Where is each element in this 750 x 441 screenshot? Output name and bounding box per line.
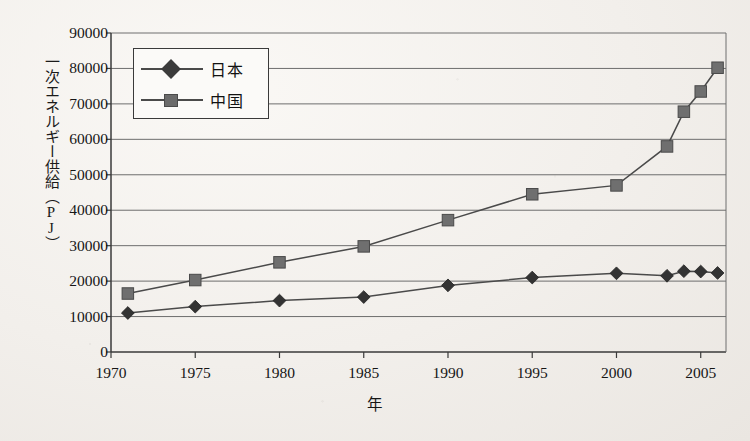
data-point-china <box>274 257 286 269</box>
data-point-china <box>526 189 538 201</box>
data-point-china <box>189 274 201 286</box>
data-point-china <box>442 214 454 226</box>
y-tick-label: 30000 <box>69 237 108 255</box>
data-point-china <box>661 141 673 153</box>
y-tick-label: 70000 <box>69 95 108 113</box>
x-tick-label: 2000 <box>601 364 632 382</box>
y-tick-label: 0 <box>100 343 108 361</box>
chart-figure: 一次エネルギー供給（PJ） 01000020000300004000050000… <box>0 0 750 441</box>
x-tick-label: 1980 <box>264 364 295 382</box>
y-tick-label: 40000 <box>69 201 108 219</box>
data-point-japan <box>711 267 724 280</box>
data-point-japan <box>610 267 623 280</box>
y-tick-label: 80000 <box>69 59 108 77</box>
data-point-china <box>712 62 724 73</box>
square-marker-icon <box>141 91 203 109</box>
y-tick-label: 90000 <box>69 24 108 42</box>
data-point-japan <box>526 271 539 284</box>
data-point-china <box>678 106 690 118</box>
diamond-marker-icon <box>141 60 203 78</box>
x-axis-tick-group: 19701975198019851990199520002005 <box>0 364 750 386</box>
data-point-japan <box>357 291 370 304</box>
y-tick-label: 10000 <box>69 308 108 326</box>
data-point-japan <box>677 265 690 278</box>
series-line-japan <box>128 271 718 313</box>
legend-label-china: 中国 <box>210 88 243 112</box>
x-tick-label: 1985 <box>348 364 379 382</box>
x-tick-label: 1995 <box>517 364 548 382</box>
legend-item-china: 中国 <box>134 85 270 115</box>
x-tick-label: 1970 <box>96 364 127 382</box>
x-tick-label: 1990 <box>432 364 463 382</box>
y-tick-label: 20000 <box>69 272 108 290</box>
data-point-japan <box>661 269 674 282</box>
data-point-china <box>695 86 707 98</box>
legend-item-japan: 日本 <box>134 54 270 84</box>
x-tick-label: 1975 <box>180 364 211 382</box>
data-point-japan <box>121 307 134 320</box>
chart-legend: 日本 中国 <box>133 48 269 119</box>
data-point-china <box>358 241 370 253</box>
data-point-japan <box>189 300 202 313</box>
x-axis-label: 年 <box>0 392 750 414</box>
data-point-japan <box>273 294 286 307</box>
x-tick-label: 2005 <box>685 364 716 382</box>
data-point-china <box>611 180 623 192</box>
data-point-japan <box>694 265 707 278</box>
legend-label-japan: 日本 <box>210 57 243 81</box>
y-tick-label: 50000 <box>69 166 108 184</box>
data-point-china <box>122 288 133 300</box>
y-tick-label: 60000 <box>69 130 108 148</box>
